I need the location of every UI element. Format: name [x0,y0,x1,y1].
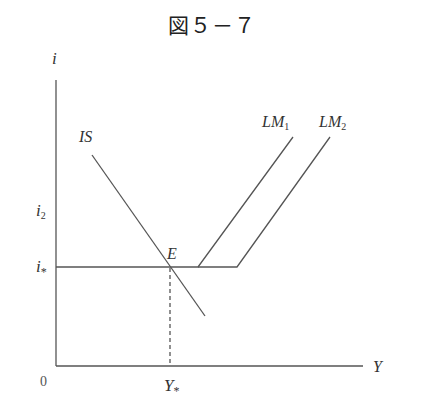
lm2-label: LM2 [318,113,346,132]
origin-label: 0 [40,374,47,389]
equilibrium-label: E [166,245,177,262]
lm1-label: LM1 [261,113,289,132]
i2-label: i2 [36,201,46,221]
is-curve [92,155,205,316]
lm2-curve [198,137,330,267]
i-star-label: i* [36,257,47,279]
is-lm-chart: i Y 0 i2 i* Y* IS LM1 LM2 E [0,0,423,412]
x-axis-label: Y [373,358,384,375]
y-star-label: Y* [164,376,179,398]
is-label: IS [78,128,92,145]
y-axis-label: i [52,49,57,68]
